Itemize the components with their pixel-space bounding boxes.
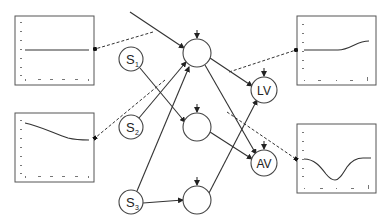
edge-s3-h1	[137, 67, 189, 191]
edge-s3-h3	[143, 200, 183, 203]
input-node-s3: S 3	[119, 190, 143, 214]
hidden-node-1	[183, 39, 211, 67]
svg-text:2: 2	[135, 129, 139, 136]
svg-text:AV: AV	[256, 157, 271, 171]
svg-text:3: 3	[135, 204, 139, 211]
edge-s1-h2	[140, 68, 185, 122]
plot-bottom-right	[297, 124, 376, 193]
plot-top-left	[15, 16, 94, 85]
edge-h1-lv	[210, 58, 252, 86]
svg-text:S: S	[126, 120, 135, 135]
link-top-left-plot	[95, 32, 153, 49]
hidden-node-2	[183, 113, 211, 141]
output-node-av: AV	[251, 150, 277, 176]
output-node-lv: LV	[251, 77, 277, 103]
svg-text:LV: LV	[257, 84, 271, 98]
input-node-s2: S 2	[119, 115, 143, 139]
plot-bottom-left	[15, 113, 94, 182]
link-top-right-plot	[229, 50, 296, 72]
svg-text:S: S	[126, 195, 135, 210]
plot-top-right	[297, 16, 376, 85]
svg-text:1: 1	[135, 61, 139, 68]
hidden-node-3	[183, 186, 211, 214]
edge-external-h1	[130, 12, 184, 48]
svg-text:S: S	[126, 52, 135, 67]
network-diagram: S 1 S 2 S 3 LV AV	[0, 0, 390, 223]
input-node-s1: S 1	[119, 47, 143, 71]
edge-h1-av	[205, 65, 256, 154]
